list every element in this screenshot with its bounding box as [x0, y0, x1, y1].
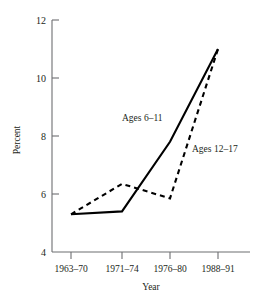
- chart-figure: 12 10 8 6 4 1963–70 1971–74 1976–80 1988…: [0, 0, 263, 296]
- x-tick-label-4: 1988–91: [201, 264, 235, 274]
- line-chart-canvas: 12 10 8 6 4 1963–70 1971–74 1976–80 1988…: [0, 0, 263, 296]
- series-annotation-ages-6-11: Ages 6–11: [122, 113, 163, 123]
- y-tick-label-12: 12: [36, 15, 46, 26]
- x-tick-label-2: 1971–74: [105, 264, 139, 274]
- x-tick-label-3: 1976–80: [153, 264, 187, 274]
- x-axis-title: Year: [142, 282, 160, 292]
- x-tick-label-1: 1963–70: [54, 264, 88, 274]
- y-tick-label-4: 4: [41, 247, 46, 258]
- y-tick-label-6: 6: [41, 189, 46, 200]
- y-axis-title: Percent: [12, 125, 22, 154]
- series-annotation-ages-12-17: Ages 12–17: [192, 144, 238, 154]
- y-tick-label-10: 10: [36, 73, 46, 84]
- y-tick-label-8: 8: [41, 131, 46, 142]
